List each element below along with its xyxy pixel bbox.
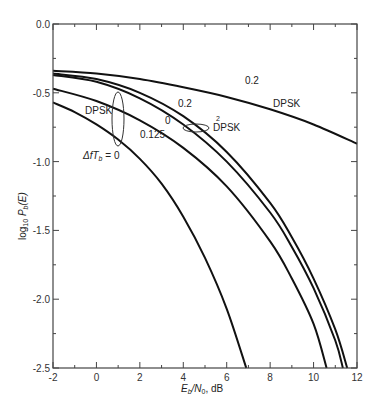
x-tick-label: 4: [181, 372, 187, 383]
label-2dpsk: DPSK: [213, 122, 241, 133]
ber-chart: -20246810120.0-0.5-1.0-1.5-2.0-2.5 0.2 D…: [0, 0, 380, 412]
x-tick-label: 2: [137, 372, 143, 383]
y-tick-label: -2.5: [33, 363, 51, 374]
x-tick-label: 0: [94, 372, 100, 383]
label-2dpsk-superscript: 2: [216, 115, 220, 122]
label-2dpsk-0.2-value: 0.2: [178, 98, 192, 109]
label-delta-f-tb: ΔfTb = 0: [82, 150, 120, 162]
label-dpsk-right: DPSK: [273, 98, 301, 109]
y-tick-label: -1.0: [33, 157, 51, 168]
label-2dpsk-0-value: 0: [165, 115, 171, 126]
y-tick-label: -1.5: [33, 225, 51, 236]
label-dpsk-0.2-value: 0.2: [245, 75, 259, 86]
x-tick-label: 10: [308, 372, 320, 383]
y-tick-label: -2.0: [33, 294, 51, 305]
y-axis-title: log10 Pb(E): [17, 192, 29, 240]
curve-series-1: [53, 74, 347, 368]
y-tick-label: -0.5: [33, 88, 51, 99]
x-tick-label: 12: [351, 372, 363, 383]
label-dpsk-left: DPSK: [85, 105, 113, 116]
y-tick-label: 0.0: [36, 19, 50, 30]
axis-tick-labels: -20246810120.0-0.5-1.0-1.5-2.0-2.5: [33, 19, 363, 383]
label-2dpsk-0.125-value: 0.125: [140, 129, 165, 140]
x-tick-label: 8: [267, 372, 273, 383]
x-tick-label: 6: [224, 372, 230, 383]
x-axis-title: Eb/N0, dB: [181, 383, 224, 395]
dpsk-group-ellipse: [112, 92, 124, 146]
